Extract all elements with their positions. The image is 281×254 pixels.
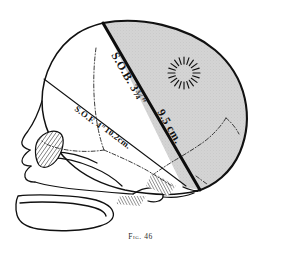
mandible (16, 195, 114, 231)
figure-caption: Fig. 46 (0, 232, 281, 241)
sof-label-secondary: 10.2cm. (103, 125, 133, 151)
shaded-posterior-segment (0, 0, 281, 254)
fetal-skull-diagram: S.O.B. 3¾″ 9.5 cm. S.O.F. 4″ 10.2cm. (0, 0, 281, 254)
petrous-temporal-hatching (116, 172, 176, 206)
coronal-suture (94, 48, 104, 150)
orbital-cavity (35, 131, 63, 167)
figure-container: S.O.B. 3¾″ 9.5 cm. S.O.F. 4″ 10.2cm. Fig… (0, 0, 281, 254)
sof-label-primary: S.O.F. 4″ (73, 104, 108, 134)
